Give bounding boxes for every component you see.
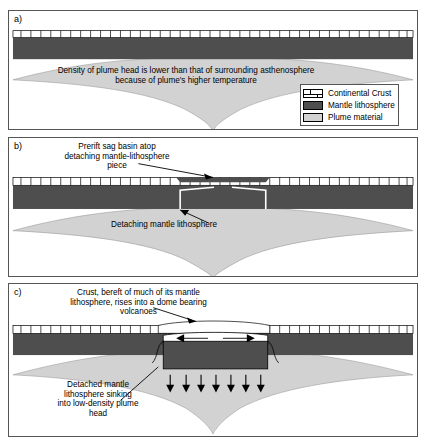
figure-root: a): [0, 0, 426, 445]
legend-label-plume-material: Plume material: [328, 113, 383, 122]
legend: Continental Crust Mantle lithosphere Plu…: [300, 84, 399, 126]
plume-body-b: [13, 207, 413, 276]
crust-dome-c: [158, 321, 269, 333]
plume-density-note: Density of plume head is lower than that…: [31, 66, 341, 85]
prerift-sag-basin-note: Prerift sag basin atop detaching mantle-…: [27, 142, 207, 171]
legend-item-plume-material: Plume material: [303, 111, 395, 123]
legend-label-continental-crust: Continental Crust: [328, 89, 391, 98]
legend-label-mantle-lithosphere: Mantle lithosphere: [328, 101, 395, 110]
panel-b: b): [8, 137, 418, 277]
mantle-lithosphere-b: [13, 185, 413, 209]
plume-material-swatch-icon: [303, 113, 323, 122]
legend-item-mantle-lithosphere: Mantle lithosphere: [303, 99, 395, 111]
detaching-mantle-lithosphere-note: Detaching mantle lithosphere: [84, 220, 244, 230]
continental-crust-swatch-icon: [303, 89, 323, 98]
legend-item-continental-crust: Continental Crust: [303, 87, 395, 99]
detached-sinking-note: Detached mantle lithosphere sinking into…: [23, 380, 173, 419]
panel-c-label: c): [14, 287, 22, 297]
detached-mantle-block-c: [163, 341, 267, 369]
prerift-sag-basin-b: [176, 177, 270, 182]
crust-dome-note: Crust, bereft of much of its mantle lith…: [31, 288, 246, 317]
mantle-lithosphere-swatch-icon: [303, 101, 323, 110]
panel-b-label: b): [14, 141, 22, 151]
panel-a-label: a): [14, 14, 22, 24]
mantle-lithosphere-a: [13, 38, 413, 60]
panel-c: c): [8, 283, 418, 437]
continental-crust-a: [13, 31, 413, 38]
